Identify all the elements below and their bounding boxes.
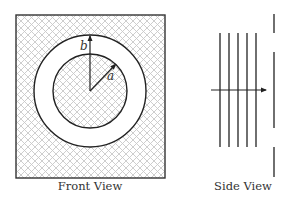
side-view: Side View — [211, 14, 274, 193]
front-view: b a Front View — [16, 15, 165, 193]
diagram-canvas: b a Front View Side View — [0, 0, 287, 200]
label-a: a — [107, 69, 114, 83]
front-view-caption: Front View — [58, 179, 123, 193]
label-b: b — [80, 39, 88, 53]
side-view-caption: Side View — [214, 179, 272, 193]
